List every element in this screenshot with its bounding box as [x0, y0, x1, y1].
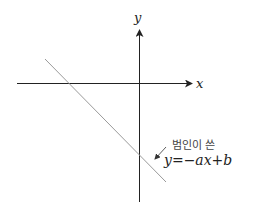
graph-line: [45, 59, 166, 182]
coordinate-diagram: x y 범인이 쓴 y=−ax+b: [0, 0, 253, 213]
annotation-label: 범인이 쓴: [172, 139, 216, 152]
annotation-equation: y=−ax+b: [163, 152, 232, 168]
x-axis-label: x: [196, 76, 204, 91]
y-axis-label: y: [133, 10, 142, 25]
